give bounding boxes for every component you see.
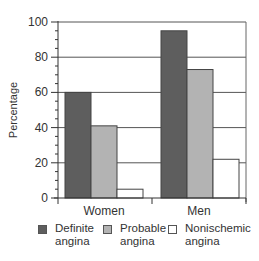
legend-item-nonischemic-angina: Nonischemic angina [168,222,255,247]
y-tick-label: 80 [35,50,49,64]
y-tick-label: 40 [35,121,49,135]
bar-men-1 [187,70,213,198]
legend-swatch-definite [38,225,47,234]
x-category-label: Men [187,204,210,218]
legend: Definite angina Probable angina Nonische… [0,222,259,261]
bar-men-2 [213,159,239,198]
bar-women-1 [91,126,117,198]
legend-swatch-probable [103,225,112,234]
y-tick-label: 100 [28,15,48,29]
bars [65,31,239,198]
bar-women-2 [117,189,143,198]
y-tick-label: 20 [35,156,49,170]
x-category-label: Women [83,204,124,218]
y-tick-label: 60 [35,85,49,99]
bar-men-0 [161,31,187,198]
y-axis-label: Percentage [7,82,19,138]
legend-swatch-nonischemic [168,225,177,234]
y-tick-label: 0 [41,191,48,205]
bar-women-0 [65,92,91,198]
legend-label: Nonischemic angina [185,222,255,247]
bar-chart: 020406080100WomenMen Percentage [0,0,259,222]
